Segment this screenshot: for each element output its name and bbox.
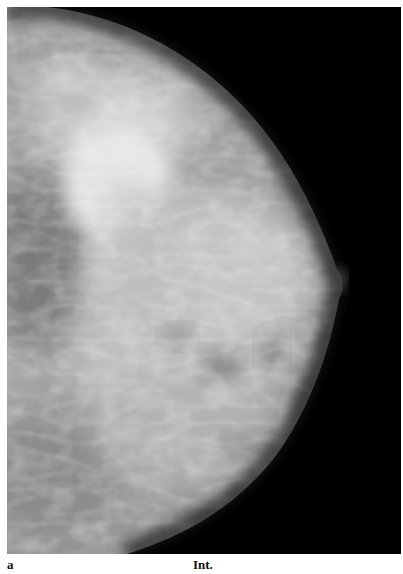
mammogram-graphic: [7, 7, 401, 554]
nipple-marker: [334, 267, 346, 291]
mammogram-image: [7, 7, 401, 554]
view-label: Int.: [193, 558, 213, 572]
panel-label: a: [7, 558, 14, 572]
